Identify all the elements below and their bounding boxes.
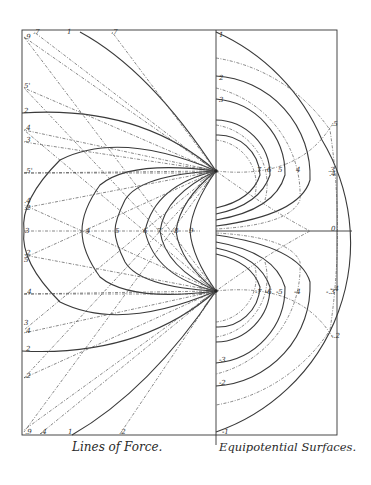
left-edge-label: 5 <box>24 256 29 264</box>
right-upper-label: 4 <box>295 166 300 174</box>
lower-charge-point <box>214 289 218 293</box>
left-edge-label: 5' <box>24 82 30 90</box>
left-midline-label: 4 <box>85 227 90 235</box>
right-left-label: 3 <box>219 96 224 104</box>
left-midline-label: 6 <box>143 227 148 235</box>
left-edge-label: .4 <box>24 124 31 132</box>
right-left-label: 2 <box>218 74 224 82</box>
force-line-2-lower <box>22 291 216 352</box>
right-left-label: -2 <box>219 379 226 387</box>
caption-lines-of-force: Lines of Force. <box>72 440 162 454</box>
left-edge-label: .9 <box>25 428 32 436</box>
left-edge-label: .2 <box>24 204 31 212</box>
equipotential-3-upper <box>216 99 285 220</box>
field-diagram: 3456789.9.71.75'2.4.3.5'.4.2.25.43.42.2.… <box>0 0 371 485</box>
left-edge-label: 1 <box>67 28 71 36</box>
force-line-8 <box>176 171 216 291</box>
left-midline-label: 3 <box>25 227 30 235</box>
plate-frame <box>22 30 337 435</box>
left-edge-label: .3 <box>24 136 31 144</box>
left-edge-label: .2 <box>24 372 31 380</box>
right-lower-label: -4 <box>294 288 301 296</box>
left-edge-label: .7 <box>33 28 40 36</box>
right-upper-label: 5 <box>278 166 283 174</box>
right-left-label: 1 <box>219 31 223 39</box>
left-edge-label: 3 <box>24 319 29 327</box>
left-midline-label: 5 <box>115 227 120 235</box>
left-midline-label: 9 <box>189 227 194 235</box>
right-edge-label: -.2 <box>331 332 341 340</box>
right-edge-label: .4 <box>329 170 336 178</box>
right-upper-label: 7 <box>257 166 262 174</box>
left-edge-label: 1 <box>68 428 72 436</box>
diagram-labels: 3456789.9.71.75'2.4.3.5'.4.2.25.43.42.2.… <box>23 28 341 436</box>
upper-charge-point <box>214 169 218 173</box>
left-edge-label: .4 <box>40 428 47 436</box>
left-edge-label: 2 <box>25 345 31 353</box>
caption-equipotential-surfaces: Equipotential Surfaces. <box>219 440 356 454</box>
right-lower-label: -6 <box>265 288 272 296</box>
right-left-label: -3 <box>219 356 226 364</box>
left-edge-label: .4 <box>25 288 32 296</box>
right-lower-label: -7 <box>255 288 262 296</box>
left-edge-label: .2 <box>119 428 126 436</box>
left-edge-label: 2 <box>23 107 29 115</box>
right-edge-label: .5 <box>331 120 338 128</box>
right-upper-label: 6 <box>267 166 272 174</box>
left-edge-label: .5' <box>24 167 33 175</box>
left-edge-label: .9 <box>24 33 31 41</box>
right-edge-label: -.4 <box>330 285 339 293</box>
right-edge-label: 0 <box>331 225 336 233</box>
left-midline-label: 8 <box>174 227 179 235</box>
left-edge-label: .4 <box>24 327 31 335</box>
left-edge-label: .7 <box>111 28 118 36</box>
left-midline-label: 7 <box>157 227 162 235</box>
right-lower-label: -5 <box>276 288 283 296</box>
right-left-label: -1 <box>222 428 229 436</box>
